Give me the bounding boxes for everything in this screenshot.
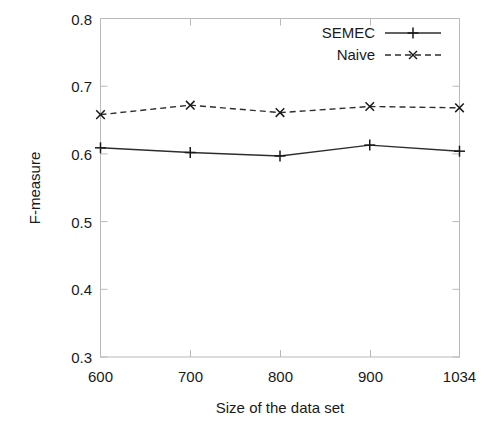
legend-label-naive: Naive (337, 46, 375, 63)
y-tick-label: 0.4 (71, 281, 92, 298)
legend-label-semec: SEMEC (322, 24, 376, 41)
line-chart-svg: 0.3 0.4 0.5 0.6 0.7 0.8 600 700 800 900 … (0, 0, 503, 435)
x-tick-label: 800 (268, 368, 293, 385)
y-tick-label: 0.8 (71, 11, 92, 28)
x-tick-label: 900 (358, 368, 383, 385)
chart-figure: 0.3 0.4 0.5 0.6 0.7 0.8 600 700 800 900 … (0, 0, 503, 435)
y-tick-label: 0.7 (71, 78, 92, 95)
y-tick-label: 0.3 (71, 349, 92, 366)
y-axis-title: F-measure (26, 152, 43, 225)
x-axis-title: Size of the data set (216, 399, 345, 416)
y-tick-label: 0.5 (71, 214, 92, 231)
x-tick-label: 1034 (443, 368, 476, 385)
y-tick-label: 0.6 (71, 146, 92, 163)
x-tick-label: 700 (178, 368, 203, 385)
x-tick-label: 600 (88, 368, 113, 385)
